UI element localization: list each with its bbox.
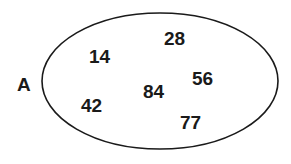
element-28: 28 — [164, 29, 185, 48]
element-84: 84 — [143, 82, 164, 101]
element-42: 42 — [81, 96, 102, 115]
set-a-label: A — [17, 75, 31, 94]
element-56: 56 — [192, 69, 213, 88]
element-77: 77 — [180, 113, 201, 132]
element-14: 14 — [89, 47, 110, 66]
